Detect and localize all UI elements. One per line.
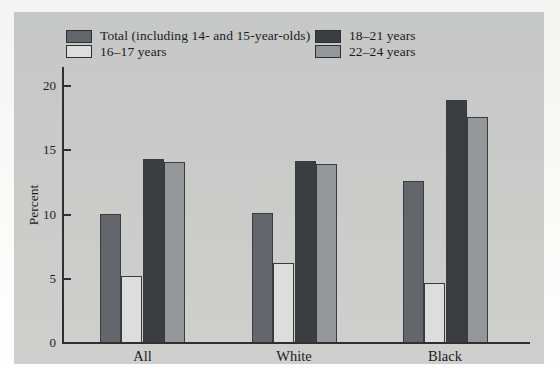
bar-all-series3 <box>164 162 185 343</box>
legend-label: 22–24 years <box>349 44 416 60</box>
legend-label: 18–21 years <box>349 28 416 44</box>
legend-swatch <box>66 30 92 43</box>
y-tick-label: 20 <box>22 78 56 94</box>
legend-item-1: 16–17 years <box>66 44 167 60</box>
legend-item-0: Total (including 14- and 15-year-olds) <box>66 28 310 44</box>
x-category-label-black: Black <box>400 348 490 365</box>
y-tick <box>62 214 71 216</box>
bar-all-series0 <box>100 214 121 343</box>
bar-black-series0 <box>403 181 424 343</box>
legend-label: Total (including 14- and 15-year-olds) <box>100 28 310 44</box>
x-category-label-white: White <box>249 348 339 365</box>
legend-swatch <box>315 45 341 58</box>
y-tick <box>62 85 71 87</box>
y-tick-label: 15 <box>22 142 56 158</box>
y-axis-line <box>62 67 64 344</box>
bar-black-series1 <box>424 283 445 343</box>
y-tick-label: 5 <box>22 271 56 287</box>
y-tick <box>62 149 71 151</box>
legend-swatch <box>66 45 92 58</box>
bar-white-series0 <box>252 213 273 343</box>
bar-black-series3 <box>467 117 488 343</box>
bar-all-series2 <box>143 159 164 343</box>
y-tick <box>62 278 71 280</box>
y-tick-label: 10 <box>22 207 56 223</box>
chart-panel: Total (including 14- and 15-year-olds)16… <box>14 12 544 364</box>
legend-swatch <box>315 30 341 43</box>
bar-white-series3 <box>316 164 337 343</box>
x-category-label-all: All <box>98 348 188 365</box>
y-tick <box>62 342 71 344</box>
legend-item-2: 18–21 years <box>315 28 416 44</box>
x-axis-line <box>62 342 530 344</box>
scanned-page: Total (including 14- and 15-year-olds)16… <box>0 0 560 387</box>
bar-white-series1 <box>273 263 294 343</box>
legend-label: 16–17 years <box>100 44 167 60</box>
bar-white-series2 <box>295 161 316 343</box>
bar-black-series2 <box>446 100 467 343</box>
y-tick-label: 0 <box>22 335 56 351</box>
bar-all-series1 <box>121 276 142 343</box>
legend-item-3: 22–24 years <box>315 44 416 60</box>
